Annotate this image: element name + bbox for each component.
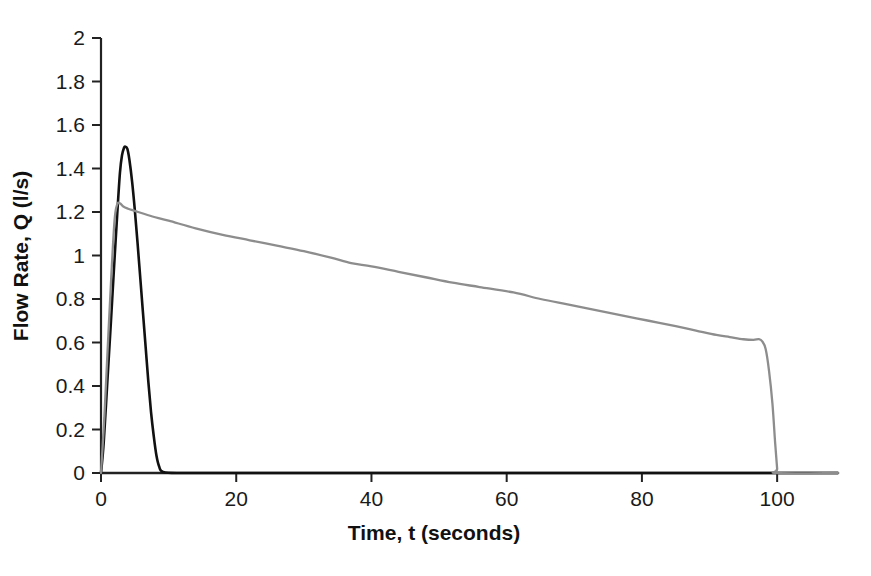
x-tick-label: 60 — [495, 487, 518, 510]
data-series-group — [101, 147, 838, 474]
y-tick-label: 1.6 — [56, 113, 85, 136]
axes-group — [101, 38, 838, 473]
x-tick-label: 40 — [360, 487, 383, 510]
y-tick-label: 1.2 — [56, 200, 85, 223]
ticks-group — [92, 38, 777, 482]
figure-container: 00.20.40.60.811.21.41.61.82020406080100 … — [0, 0, 871, 576]
x-tick-label: 80 — [630, 487, 653, 510]
y-tick-label: 1.4 — [56, 157, 86, 180]
x-tick-label: 20 — [225, 487, 248, 510]
y-tick-label: 2 — [73, 26, 85, 49]
series-grey-curve — [101, 203, 838, 474]
x-axis-title: Time, t (seconds) — [348, 521, 520, 544]
cut-off-caption — [0, 560, 871, 576]
tick-labels-group: 00.20.40.60.811.21.41.61.82020406080100 — [56, 26, 795, 510]
y-tick-label: 1.8 — [56, 70, 85, 93]
y-tick-label: 0.8 — [56, 287, 85, 310]
series-black-curve — [101, 147, 838, 473]
y-tick-label: 0.2 — [56, 418, 85, 441]
flow-rate-chart: 00.20.40.60.811.21.41.61.82020406080100 … — [0, 0, 871, 576]
x-tick-label: 100 — [760, 487, 795, 510]
y-tick-label: 0.4 — [56, 374, 86, 397]
y-axis-title: Flow Rate, Q (l/s) — [9, 171, 32, 341]
y-tick-label: 0.6 — [56, 331, 85, 354]
y-tick-label: 1 — [73, 244, 85, 267]
x-tick-label: 0 — [95, 487, 107, 510]
y-tick-label: 0 — [73, 461, 85, 484]
